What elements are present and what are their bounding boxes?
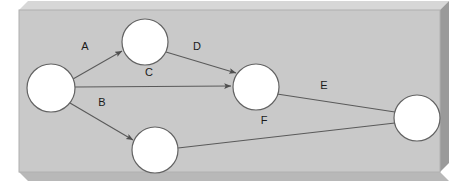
edge-label-e: E — [320, 79, 327, 91]
panel-bottom-side — [19, 172, 449, 181]
node-bottom[interactable] — [132, 127, 178, 173]
figure-root: ABCDEF — [0, 0, 469, 188]
edge-label-b: B — [98, 96, 105, 108]
node-top[interactable] — [122, 19, 168, 65]
edge-label-d: D — [193, 40, 201, 52]
panel-top-bevel — [19, 1, 449, 10]
edge-label-a: A — [81, 40, 89, 52]
node-left[interactable] — [27, 64, 75, 112]
edge-label-c: C — [145, 66, 153, 78]
node-right[interactable] — [394, 95, 440, 141]
panel-right-side — [440, 1, 449, 172]
graph-canvas: ABCDEF — [0, 0, 469, 188]
panel-face — [19, 10, 440, 172]
edge-label-f: F — [261, 114, 268, 126]
node-middle[interactable] — [233, 64, 279, 110]
